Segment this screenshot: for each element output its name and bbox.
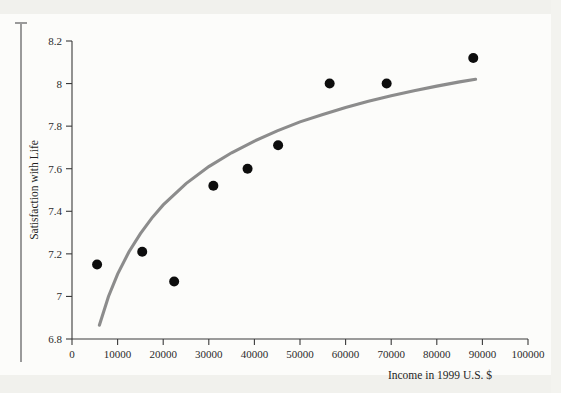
x-tick-label: 20000 bbox=[149, 348, 177, 360]
data-point bbox=[137, 247, 147, 257]
data-point bbox=[468, 53, 478, 63]
data-point bbox=[325, 79, 335, 89]
x-tick-label: 10000 bbox=[104, 348, 132, 360]
y-tick-label: 8 bbox=[57, 78, 63, 90]
x-tick-label: 50000 bbox=[286, 348, 314, 360]
x-tick-label: 100000 bbox=[512, 348, 546, 360]
x-axis-ticks: 0100002000030000400005000060000700008000… bbox=[69, 339, 545, 360]
x-tick-label: 60000 bbox=[332, 348, 360, 360]
data-point bbox=[208, 181, 218, 191]
x-tick-label: 90000 bbox=[469, 348, 497, 360]
y-tick-label: 7.6 bbox=[48, 163, 62, 175]
y-tick-label: 7.8 bbox=[48, 120, 62, 132]
data-point bbox=[92, 260, 102, 270]
scatter-plot: 6.877.27.47.67.888.2 0100002000030000400… bbox=[0, 0, 561, 393]
y-tick-label: 8.2 bbox=[48, 35, 62, 47]
x-axis-title: Income in 1999 U.S. $ bbox=[388, 369, 492, 381]
x-tick-label: 0 bbox=[69, 348, 75, 360]
y-tick-label: 7.4 bbox=[48, 205, 62, 217]
data-point bbox=[273, 140, 283, 150]
y-tick-label: 6.8 bbox=[48, 333, 62, 345]
page-canvas: 6.877.27.47.67.888.2 0100002000030000400… bbox=[0, 0, 561, 393]
y-tick-label: 7.2 bbox=[48, 248, 62, 260]
x-tick-label: 70000 bbox=[377, 348, 405, 360]
fit-curve bbox=[99, 79, 475, 325]
y-axis-title: Satisfaction with Life bbox=[28, 140, 40, 240]
data-point bbox=[169, 277, 179, 287]
x-tick-label: 80000 bbox=[423, 348, 451, 360]
y-tick-label: 7 bbox=[57, 290, 63, 302]
x-tick-label: 30000 bbox=[195, 348, 223, 360]
data-point bbox=[243, 164, 253, 174]
x-tick-label: 40000 bbox=[241, 348, 269, 360]
data-point bbox=[382, 79, 392, 89]
y-axis-ticks: 6.877.27.47.67.888.2 bbox=[48, 35, 72, 345]
